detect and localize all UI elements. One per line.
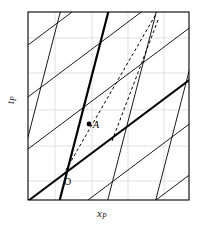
steep-line-thin	[196, 0, 197, 228]
y-axis-label: tP	[4, 96, 16, 104]
x-axis-label-subscript: P	[102, 212, 107, 221]
point-marker-A	[87, 122, 92, 127]
y-axis-label-subscript: P	[9, 96, 18, 101]
point-label-A: A	[93, 119, 99, 130]
x-axis-label: xP	[97, 207, 106, 219]
point-label-O: O	[64, 176, 71, 187]
diagram-canvas	[0, 0, 197, 228]
geometry-figure: tP xP A O	[0, 0, 197, 228]
steep-line-thin	[0, 0, 19, 228]
y-axis-label-text: t	[4, 101, 16, 104]
plot-background	[28, 12, 189, 200]
